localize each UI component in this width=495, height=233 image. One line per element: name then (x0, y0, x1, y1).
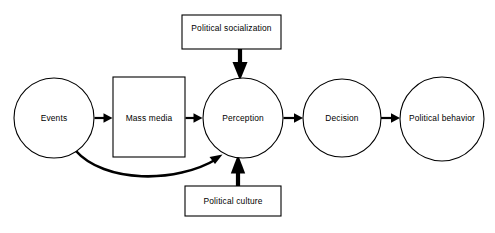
edge-culture-to-perception (231, 155, 245, 187)
edge-decision-to-political-behavior (381, 113, 400, 123)
arrowhead-mass-media-to-perception (194, 113, 203, 123)
political-culture-label: Political culture (204, 196, 263, 206)
arrowhead-events-to-mass-media (104, 113, 113, 123)
node-mass-media[interactable]: Mass media (113, 77, 185, 157)
perception-label: Perception (222, 113, 264, 123)
political-behavior-label: Political behavior (409, 113, 475, 123)
edge-events-to-mass-media (95, 113, 113, 123)
edge-mass-media-to-perception (186, 113, 203, 123)
arrowhead-decision-to-political-behavior (391, 113, 400, 123)
node-perception[interactable]: Perception (203, 78, 283, 158)
node-decision[interactable]: Decision (303, 79, 381, 157)
node-political-culture[interactable]: Political culture (185, 186, 281, 216)
diagram-canvas: Events Mass media Perception Decision Po… (0, 0, 495, 233)
decision-label: Decision (325, 113, 359, 123)
edge-perception-to-decision (284, 113, 304, 123)
arrowhead-perception-to-decision (294, 113, 303, 123)
mass-media-label: Mass media (126, 113, 173, 123)
node-events[interactable]: Events (14, 78, 94, 158)
events-label: Events (41, 113, 68, 123)
flow-diagram: Events Mass media Perception Decision Po… (0, 0, 495, 233)
edge-socialization-to-perception (233, 49, 248, 81)
political-socialization-label: Political socialization (191, 23, 271, 33)
node-political-socialization[interactable]: Political socialization (182, 15, 281, 49)
node-political-behavior[interactable]: Political behavior (400, 77, 484, 161)
